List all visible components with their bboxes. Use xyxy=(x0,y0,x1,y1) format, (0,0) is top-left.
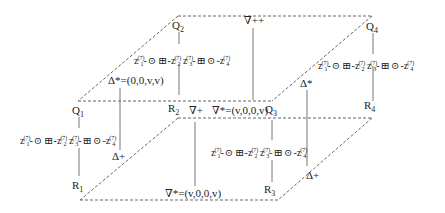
node-r1: R1 xyxy=(72,180,83,195)
boxplus-icon: ⊞ xyxy=(342,60,350,71)
chain-q1: z(7)1-⊙⊞-z(7)2 z(7)3-⊞⊙-z(7)4 xyxy=(20,133,115,149)
odot-icon: ⊙ xyxy=(93,135,101,146)
boxplus-icon: ⊞ xyxy=(83,135,91,146)
odot-icon: ⊙ xyxy=(225,147,233,158)
label-delta-star: Δ* xyxy=(300,78,313,89)
label-nabla-plusplus: ∇++ xyxy=(244,15,264,26)
label-nabla-star-top: ∇*=(v,0,0,v) xyxy=(212,105,268,116)
odot-icon: ⊙ xyxy=(332,60,340,71)
boxplus-icon: ⊞ xyxy=(158,55,166,66)
chain-q3: z(7)1-⊙⊞-z(7)2 z(7)3-⊞⊙-z(7)4 xyxy=(211,145,306,161)
odot-icon: ⊙ xyxy=(284,147,292,158)
label-nabla-plus: ∇+ xyxy=(189,105,203,116)
boxplus-icon: ⊞ xyxy=(44,135,52,146)
node-r3: R3 xyxy=(264,184,275,199)
label-nabla-star-bottom: ∇*=(v,0,0,v) xyxy=(165,188,221,199)
node-r4: R4 xyxy=(364,100,375,115)
label-delta-plus-left: Δ+ xyxy=(112,151,125,162)
odot-icon: ⊙ xyxy=(34,135,42,146)
odot-icon: ⊙ xyxy=(148,55,156,66)
label-delta-plus-right: Δ+ xyxy=(306,170,319,181)
node-q2: Q2 xyxy=(172,20,184,35)
boxplus-icon: ⊞ xyxy=(381,60,389,71)
chain-q2: z(7)1-⊙⊞-z(7)2 z(7)3-⊞⊙-z(7)4 xyxy=(134,53,229,69)
odot-icon: ⊙ xyxy=(391,60,399,71)
chain-q4: z(7)1-⊙⊞-z(7)2 z(7)3-⊞⊙-z(7)4 xyxy=(318,58,413,74)
node-q4: Q4 xyxy=(366,21,378,36)
odot-icon: ⊙ xyxy=(207,55,215,66)
lower-left-diagonal xyxy=(80,118,178,200)
node-r2: R2 xyxy=(168,103,179,118)
label-delta-star-vec: Δ*=(0,0,v,v) xyxy=(108,75,164,86)
boxplus-icon: ⊞ xyxy=(235,147,243,158)
boxplus-icon: ⊞ xyxy=(274,147,282,158)
node-q1: Q1 xyxy=(72,105,84,120)
boxplus-icon: ⊞ xyxy=(197,55,205,66)
